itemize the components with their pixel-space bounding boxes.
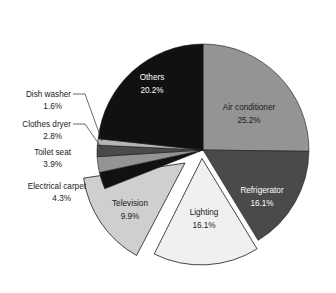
slice-label-lighting-value: 16.1% xyxy=(192,221,215,230)
callout-electrical-carpet-name: Electrical carpet xyxy=(28,182,87,191)
slice-label-refrigerator-name: Refrigerator xyxy=(240,186,284,195)
pie-chart-svg: Air conditioner 25.2% Refrigerator 16.1%… xyxy=(0,0,336,293)
leader-line-dish-washer xyxy=(73,94,102,141)
callout-electrical-carpet-value: 4.3% xyxy=(52,194,71,203)
callout-toilet-seat: Toilet seat 3.9% xyxy=(34,148,72,169)
pie-slice-others[interactable] xyxy=(98,44,203,150)
pie-chart-figure: Air conditioner 25.2% Refrigerator 16.1%… xyxy=(0,0,336,293)
callout-toilet-seat-name: Toilet seat xyxy=(34,148,72,157)
callout-clothes-dryer-value: 2.8% xyxy=(43,132,62,141)
callout-toilet-seat-value: 3.9% xyxy=(43,160,62,169)
pie-slice-air-conditioner[interactable] xyxy=(203,44,309,151)
callout-electrical-carpet: Electrical carpet 4.3% xyxy=(28,182,87,203)
slice-label-television-name: Television xyxy=(112,199,148,208)
slice-label-refrigerator-value: 16.1% xyxy=(250,199,273,208)
slice-label-television-value: 9.9% xyxy=(121,212,140,221)
slice-label-air-conditioner-name: Air conditioner xyxy=(223,103,276,112)
slice-label-air-conditioner-value: 25.2% xyxy=(237,116,260,125)
slice-label-others-name: Others xyxy=(140,73,165,82)
callout-clothes-dryer-name: Clothes dryer xyxy=(22,120,71,129)
callout-dish-washer-name: Dish washer xyxy=(26,90,71,99)
slice-label-others-value: 20.2% xyxy=(140,86,163,95)
callout-dish-washer-value: 1.6% xyxy=(43,102,62,111)
slice-label-lighting-name: Lighting xyxy=(190,208,219,217)
callout-clothes-dryer: Clothes dryer 2.8% xyxy=(22,120,103,150)
callout-dish-washer: Dish washer 1.6% xyxy=(26,90,102,141)
